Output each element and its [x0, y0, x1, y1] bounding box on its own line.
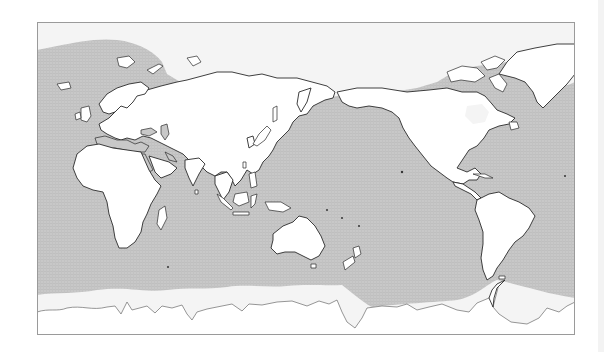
falklands [499, 276, 505, 279]
taiwan [243, 162, 246, 168]
world-map [37, 22, 575, 335]
pacific-island [326, 209, 328, 211]
java [233, 212, 249, 215]
pacific-island [358, 225, 360, 227]
tasmania [311, 264, 316, 268]
hawaii-islands [401, 171, 403, 173]
pacific-island [341, 217, 343, 219]
sri-lanka [195, 190, 198, 194]
page-edge-strip [598, 0, 604, 352]
sakhalin [273, 106, 277, 122]
atlantic-island [564, 175, 566, 177]
indian-ocean-island [167, 266, 169, 268]
